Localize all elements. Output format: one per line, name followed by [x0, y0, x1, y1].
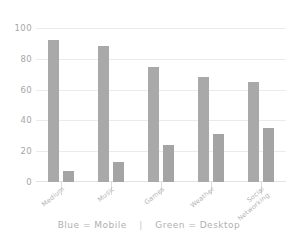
x-tick: Weather — [188, 182, 234, 222]
bar-desktop — [213, 134, 224, 182]
x-tick-label: Social Networking — [231, 185, 271, 223]
x-tick: Games — [138, 182, 184, 222]
legend-separator: | — [130, 220, 152, 230]
y-tick-label: 100 — [15, 24, 32, 33]
legend-desktop-label: Green = Desktop — [155, 220, 240, 230]
x-tick-label: Games — [143, 185, 166, 206]
bar-desktop — [63, 171, 74, 182]
bar-group — [238, 28, 284, 182]
x-tick: Social Networking — [238, 182, 284, 222]
x-axis: Medium Music Games Weather — [36, 182, 286, 222]
x-tick: Medium — [38, 182, 84, 222]
y-tick-label: 60 — [20, 86, 32, 95]
y-axis: 100 80 60 40 20 0 — [0, 28, 32, 182]
bar-desktop — [163, 145, 174, 182]
x-tick-label: Music — [96, 185, 116, 204]
bar-group — [88, 28, 134, 182]
bar-group — [138, 28, 184, 182]
x-tick-label-line1: Medium — [40, 185, 66, 209]
y-tick-label: 80 — [20, 55, 32, 64]
bar-desktop — [113, 162, 124, 182]
bar-group — [38, 28, 84, 182]
bar-chart: 100 80 60 40 20 0 — [0, 0, 298, 240]
x-tick-label-line1: Music — [96, 185, 116, 204]
chart-legend: Blue = Mobile | Green = Desktop — [0, 220, 298, 230]
bar-mobile — [148, 67, 159, 183]
bars-layer — [36, 28, 286, 182]
x-tick-label-line1: Weather — [189, 185, 216, 210]
bar-desktop — [263, 128, 274, 182]
x-tick-label: Medium — [40, 185, 66, 209]
x-tick-label-line1: Games — [143, 185, 166, 206]
bar-mobile — [48, 40, 59, 182]
x-tick-label: Weather — [189, 185, 216, 210]
y-tick-label: 20 — [20, 147, 32, 156]
y-tick-label: 0 — [26, 178, 32, 187]
bar-group — [188, 28, 234, 182]
legend-mobile-label: Blue = Mobile — [58, 220, 127, 230]
y-tick-label: 40 — [20, 116, 32, 125]
bar-mobile — [248, 82, 259, 182]
bar-mobile — [98, 46, 109, 182]
bar-mobile — [198, 77, 209, 182]
x-tick: Music — [88, 182, 134, 222]
